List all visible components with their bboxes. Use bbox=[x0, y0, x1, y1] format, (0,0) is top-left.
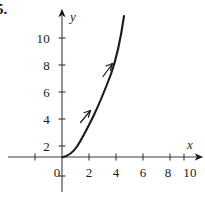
graph-figure: 5. bbox=[0, 0, 205, 199]
y-tick-label-10: 10 bbox=[26, 32, 50, 45]
x-tick-label-6: 6 bbox=[136, 166, 150, 179]
x-tick-label-4: 4 bbox=[109, 166, 123, 179]
exponential-curve bbox=[63, 16, 125, 157]
y-tick-label-4: 4 bbox=[26, 113, 50, 126]
y-tick-label-2: 2 bbox=[26, 140, 50, 153]
y-tick-label-6: 6 bbox=[26, 86, 50, 99]
curve-direction-arrow-lower bbox=[81, 111, 91, 123]
x-tick-label-2: 2 bbox=[82, 166, 96, 179]
y-tick-label-8: 8 bbox=[26, 59, 50, 72]
x-tick-label-8: 8 bbox=[161, 166, 175, 179]
y-axis-label: y bbox=[70, 10, 76, 23]
x-tick-label-0: 0 bbox=[50, 166, 64, 179]
x-tick-label-10: 10 bbox=[180, 166, 200, 179]
x-axis-label: x bbox=[187, 138, 193, 151]
